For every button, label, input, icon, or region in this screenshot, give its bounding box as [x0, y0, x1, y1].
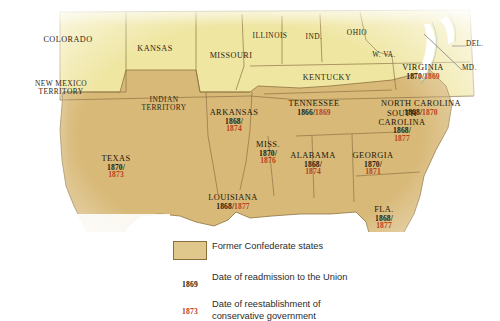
- legend-label-readmission: Date of readmission to the Union: [212, 271, 347, 284]
- legend-key-conservative: 1873: [182, 307, 198, 316]
- confederate-fill-swatch: [173, 241, 207, 260]
- legend-row-confederate: Former Confederate states: [168, 240, 398, 264]
- legend-swatch-cell: [168, 240, 212, 264]
- map-legend: Former Confederate states 1869 Date of r…: [168, 240, 398, 321]
- legend-key-readmission: 1869: [182, 280, 198, 289]
- confederate-reconstruction-map: COLORADO KANSAS MISSOURI ILLINOIS IND. O…: [0, 0, 500, 321]
- legend-label-conservative: Date of reestablishment of conservative …: [212, 298, 321, 321]
- legend-row-conservative: 1873 Date of reestablishment of conserva…: [168, 298, 398, 321]
- legend-label-confederate: Former Confederate states: [212, 240, 323, 253]
- legend-row-readmission: 1869 Date of readmission to the Union: [168, 271, 398, 291]
